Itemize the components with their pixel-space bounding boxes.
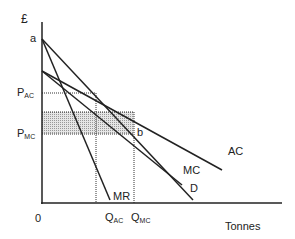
d-curve-label: D: [190, 182, 198, 194]
economics-diagram: [0, 0, 295, 239]
origin-label: 0: [35, 212, 41, 224]
x-axis-label: Tonnes: [225, 220, 260, 232]
p-ac-label: PAC: [17, 86, 34, 99]
mc-curve-label: MC: [183, 164, 200, 176]
point-b-label: b: [137, 126, 143, 138]
y-axis-label: £: [21, 12, 28, 26]
mr-curve-label: MR: [113, 190, 130, 202]
ac-curve-label: AC: [228, 145, 243, 157]
point-a-label: a: [30, 32, 36, 44]
p-mc-label: PMC: [17, 127, 35, 140]
q-ac-label: QAC: [105, 211, 123, 224]
q-mc-label: QMC: [131, 211, 150, 224]
